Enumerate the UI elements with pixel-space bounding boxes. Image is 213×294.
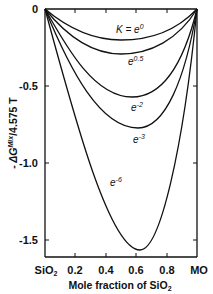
y-axis-title: - ΔGMix/4.575 T [7,97,19,169]
x-tick-0-2: 0.2 [67,264,82,276]
y-tick-neg0-5: -0.5 [19,80,38,92]
curve-e-6 [45,9,197,250]
y-ticks [45,86,197,240]
y-tick-neg1-0: -1.0 [19,157,38,169]
x-axis-title: Mole fraction of SiO2 [68,279,171,292]
curve-label-e-6: e-6 [110,176,122,188]
x-tick-sio2: SiO2 [35,264,58,277]
curve-label-e-3: e-3 [133,133,145,145]
x-tick-0-4: 0.4 [98,264,114,276]
curve-e-2 [45,9,197,97]
x-tick-0-6: 0.6 [128,264,143,276]
curve-label-e-2: e-2 [131,101,143,113]
y-tick-0: 0 [32,3,38,15]
y-tick-neg1-5: -1.5 [19,234,38,246]
x-tick-0-8: 0.8 [159,264,174,276]
curve-label-k-e0: K = e0 [116,23,144,35]
x-tick-mo: MO [190,264,208,276]
chart: 0 -0.5 -1.0 -1.5 SiO2 0.2 0.4 0.6 0.8 MO… [0,0,213,294]
curve-label-e0-5: e0.5 [128,55,143,67]
